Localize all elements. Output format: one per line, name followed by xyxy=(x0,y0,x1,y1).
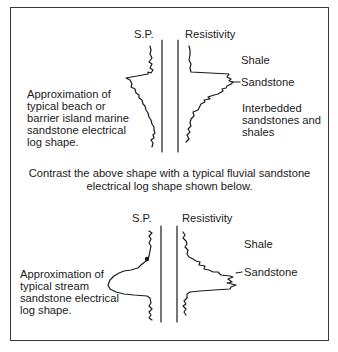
top-resistivity-curve xyxy=(186,46,233,142)
bottom-resistivity-curve xyxy=(183,232,236,315)
bottom-sandstone-pointer xyxy=(236,272,242,273)
top-sp-curve xyxy=(126,46,155,147)
bottom-sp-curve xyxy=(108,231,152,320)
log-curves xyxy=(0,0,338,352)
bottom-sp-marker xyxy=(145,257,148,260)
